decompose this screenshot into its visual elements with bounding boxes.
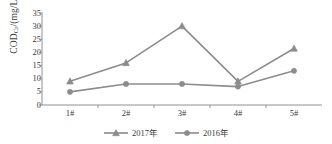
x-axis-tick-label: 4# <box>223 109 253 118</box>
data-point-marker-circle <box>184 130 189 135</box>
legend-label: 2016年 <box>203 129 229 138</box>
data-point-marker-circle <box>235 84 240 89</box>
data-point-marker-circle <box>123 81 128 86</box>
data-point-marker-triangle <box>123 59 130 65</box>
data-series-group <box>67 23 298 95</box>
chart-legend: 2017年2016年 <box>0 126 332 140</box>
data-point-marker-triangle <box>291 45 298 51</box>
legend-marker-circle <box>174 127 200 139</box>
data-series <box>67 68 296 94</box>
data-point-marker-circle <box>179 81 184 86</box>
data-point-marker-circle <box>67 89 72 94</box>
data-point-marker-triangle <box>179 23 186 29</box>
chart-container: CODCr/(mg/L) 05101520253035 1#2#3#4#5# 2… <box>0 0 332 144</box>
data-series <box>67 23 298 84</box>
data-series-line <box>70 26 294 81</box>
x-axis-tick-label: 5# <box>279 109 309 118</box>
legend-marker-triangle <box>103 127 129 139</box>
x-axis-tick-label: 3# <box>167 109 197 118</box>
x-axis-tick-label: 1# <box>55 109 85 118</box>
x-axis-tick-labels: 1#2#3#4#5# <box>0 109 332 121</box>
x-axis-tick-label: 2# <box>111 109 141 118</box>
legend-entry[interactable]: 2017年 <box>103 127 158 139</box>
data-point-marker-circle <box>291 68 296 73</box>
plot-area <box>0 0 332 144</box>
legend-entry[interactable]: 2016年 <box>174 127 229 139</box>
axis-ticks <box>39 13 266 108</box>
legend-label: 2017年 <box>132 129 158 138</box>
